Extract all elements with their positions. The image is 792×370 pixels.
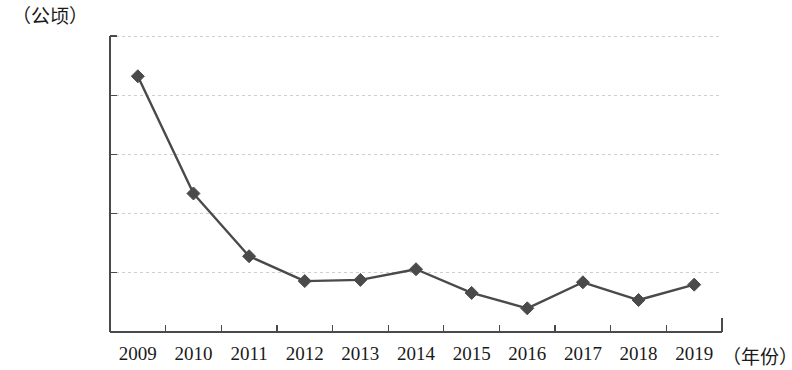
x-axis-tick-labels: 2009201020112012201320142015201620172018… [0,0,792,370]
x-tick-label: 2015 [453,344,491,363]
x-tick-label: 2016 [508,344,546,363]
line-chart: （公顷） （年份） 050000100000150000200000250000… [0,0,792,370]
x-tick-label: 2014 [397,344,435,363]
x-tick-label: 2011 [230,344,267,363]
x-tick-label: 2019 [675,344,713,363]
x-tick-label: 2009 [119,344,157,363]
x-tick-label: 2018 [620,344,658,363]
x-tick-label: 2012 [286,344,324,363]
x-tick-label: 2013 [341,344,379,363]
x-tick-label: 2017 [564,344,602,363]
x-tick-label: 2010 [174,344,212,363]
